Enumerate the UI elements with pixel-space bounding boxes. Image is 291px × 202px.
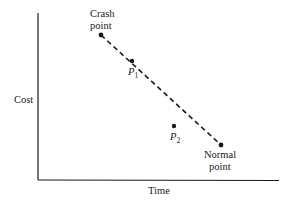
crash-normal-dashed-line xyxy=(101,35,221,145)
p1-subscript: 1 xyxy=(134,71,138,80)
x-axis xyxy=(38,180,279,181)
crash-cost-diagram: Cost Time Crash point Normal point P1 P2 xyxy=(0,0,291,202)
y-axis-label: Cost xyxy=(14,94,33,105)
p1-label: P1 xyxy=(127,66,138,80)
normal-point-label-line2: point xyxy=(209,161,231,172)
crash-point-label-line2: point xyxy=(90,20,112,31)
x-axis-label: Time xyxy=(148,185,170,196)
p1-dot xyxy=(130,59,134,63)
crash-point-dot xyxy=(99,33,104,38)
normal-point-label-line1: Normal xyxy=(204,149,236,160)
normal-point-dot xyxy=(219,143,224,148)
p2-subscript: 2 xyxy=(176,136,180,145)
crash-point-label-line1: Crash xyxy=(90,8,115,19)
p2-label: P2 xyxy=(169,131,180,145)
p2-dot xyxy=(172,124,176,128)
